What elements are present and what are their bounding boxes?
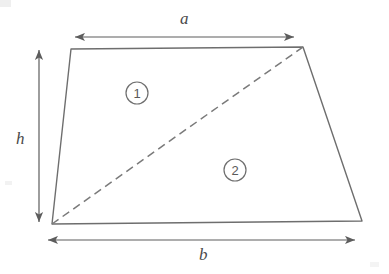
label-side-b: b — [199, 246, 208, 263]
region-one-label: 1 — [130, 87, 144, 100]
label-height-h: h — [16, 130, 25, 147]
label-side-a: a — [180, 10, 189, 27]
scan-artifacts — [0, 0, 379, 267]
region-two-label: 2 — [228, 164, 242, 177]
geometry-figure: a b h 1 2 — [0, 0, 389, 274]
diagonal-dashed-line — [52, 47, 303, 224]
trapezoid-outline — [52, 47, 362, 224]
trapezoid-diagram-svg — [0, 0, 389, 274]
